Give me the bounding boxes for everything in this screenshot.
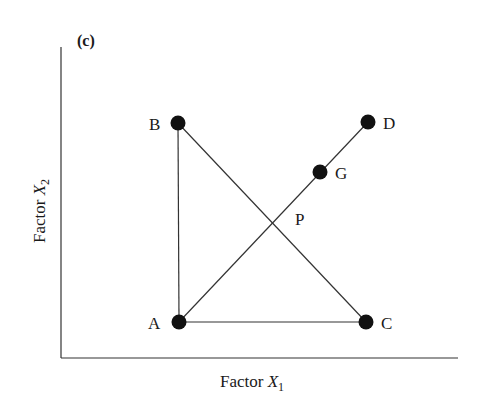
point-g <box>313 165 328 180</box>
x-axis-label-sub: 1 <box>278 380 284 394</box>
factor-diagram: A B C D G P (c) Factor X1 Factor X2 <box>0 0 487 399</box>
segment-ad <box>179 122 368 322</box>
label-d: D <box>383 114 395 133</box>
label-b: B <box>149 115 160 134</box>
y-axis-label-prefix: Factor <box>30 195 49 243</box>
y-axis-label-var: X <box>30 184 49 196</box>
segment-ab <box>178 123 179 322</box>
x-axis-label: Factor X1 <box>220 372 284 394</box>
label-c: C <box>381 314 392 333</box>
point-b <box>171 116 186 131</box>
point-a <box>172 315 187 330</box>
point-c <box>359 315 374 330</box>
segment-bc <box>178 123 366 322</box>
x-axis-label-prefix: Factor <box>220 372 268 391</box>
y-axis-label-sub: 2 <box>38 179 52 185</box>
panel-label: (c) <box>77 32 95 50</box>
y-axis-label: Factor X2 <box>30 179 52 243</box>
label-g: G <box>335 164 347 183</box>
x-axis-label-var: X <box>267 372 279 391</box>
label-a: A <box>148 314 161 333</box>
point-d <box>361 115 376 130</box>
label-p: P <box>295 210 304 229</box>
